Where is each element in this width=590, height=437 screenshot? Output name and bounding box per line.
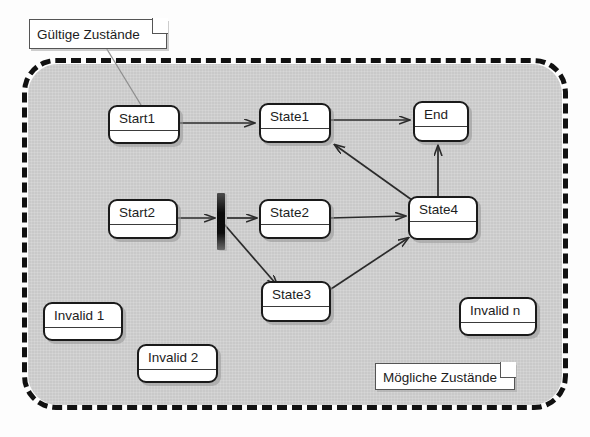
state-box-state4[interactable]: State4 (408, 196, 478, 240)
state-label-start2: Start2 (110, 201, 176, 225)
state-box-state3[interactable]: State3 (261, 281, 331, 322)
note-fold-icon (500, 362, 516, 378)
state-compartment-state4 (410, 222, 476, 238)
note-fold-icon (152, 18, 168, 34)
state-label-state2: State2 (261, 201, 329, 225)
state-compartment-end (415, 127, 467, 140)
state-compartment-state2 (261, 225, 329, 237)
state-label-start1: Start1 (110, 107, 178, 131)
fork-join-bar[interactable] (217, 193, 225, 250)
state-box-invalid1[interactable]: Invalid 1 (43, 302, 123, 341)
state-compartment-start2 (110, 225, 176, 237)
state-box-start1[interactable]: Start1 (108, 105, 180, 144)
state-box-invalidn[interactable]: Invalid n (459, 297, 537, 336)
state-compartment-state3 (263, 307, 329, 320)
state-compartment-invalid2 (139, 370, 216, 381)
note-possible-states-text: Mögliche Zustände (383, 369, 497, 384)
state-box-state1[interactable]: State1 (259, 103, 331, 143)
note-valid-states[interactable]: Gültige Zustände (29, 19, 167, 49)
state-label-invalidn: Invalid n (461, 299, 535, 323)
note-valid-states-text: Gültige Zustände (37, 27, 140, 42)
state-box-state2[interactable]: State2 (259, 199, 331, 239)
state-label-end: End (415, 103, 467, 127)
state-box-end[interactable]: End (413, 101, 469, 142)
state-compartment-state1 (261, 129, 329, 141)
state-box-start2[interactable]: Start2 (108, 199, 178, 239)
state-label-invalid1: Invalid 1 (45, 304, 121, 328)
state-label-state4: State4 (410, 198, 476, 222)
state-label-state1: State1 (261, 105, 329, 129)
state-label-state3: State3 (263, 283, 329, 307)
state-compartment-start1 (110, 131, 178, 142)
diagram-canvas: Start1 State1 End Start2 State2 State4 S… (0, 0, 590, 437)
state-label-invalid2: Invalid 2 (139, 346, 216, 370)
state-compartment-invalid1 (45, 328, 121, 339)
state-box-invalid2[interactable]: Invalid 2 (137, 344, 218, 383)
state-compartment-invalidn (461, 323, 535, 334)
note-possible-states[interactable]: Mögliche Zustände (375, 363, 515, 390)
